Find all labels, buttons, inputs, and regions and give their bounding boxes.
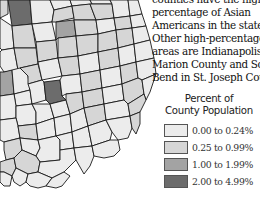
annotation-line: percentage of Asian xyxy=(152,6,260,19)
county xyxy=(0,94,16,120)
legend-swatch xyxy=(164,141,188,154)
legend-swatch xyxy=(164,158,188,171)
county xyxy=(32,22,56,42)
county xyxy=(8,0,32,26)
county xyxy=(30,0,54,24)
legend-item: 2.00 to 4.99% xyxy=(164,175,260,192)
county xyxy=(74,20,98,36)
county xyxy=(58,36,78,58)
legend-title-line: County Population xyxy=(158,105,260,117)
legend-swatch xyxy=(164,124,188,137)
annotation-text: counties have the high percentage of Asi… xyxy=(152,0,260,84)
county xyxy=(36,136,60,162)
annotation-line: Marion County and So xyxy=(152,58,260,71)
legend-title-line: Percent of xyxy=(158,93,260,105)
county-map xyxy=(0,0,160,219)
legend-swatch xyxy=(164,175,188,188)
legend: 0.00 to 0.24% 0.25 to 0.99% 1.00 to 1.99… xyxy=(164,124,260,192)
legend-title: Percent of County Population xyxy=(158,93,260,117)
legend-label: 0.25 to 0.99% xyxy=(192,141,253,154)
county xyxy=(18,124,38,140)
indiana-county-map xyxy=(0,0,160,219)
county xyxy=(0,0,8,18)
legend-item: 0.00 to 0.24% xyxy=(164,124,260,141)
annotation-line: areas are Indianapolis xyxy=(152,45,260,58)
legend-label: 2.00 to 4.99% xyxy=(192,175,253,188)
legend-label: 1.00 to 1.99% xyxy=(192,158,253,171)
annotation-line: Americans in the state. xyxy=(152,19,260,32)
legend-label: 0.00 to 0.24% xyxy=(192,124,253,137)
county xyxy=(128,0,142,16)
legend-item: 1.00 to 1.99% xyxy=(164,158,260,175)
county xyxy=(58,56,80,76)
legend-item: 0.25 to 0.99% xyxy=(164,141,260,158)
county xyxy=(130,112,140,134)
county xyxy=(90,0,112,4)
annotation-line: Other high-percentage xyxy=(152,32,260,45)
county xyxy=(74,146,94,174)
annotation-line: Bend in St. Joseph Cou xyxy=(152,71,260,84)
county xyxy=(16,104,36,126)
